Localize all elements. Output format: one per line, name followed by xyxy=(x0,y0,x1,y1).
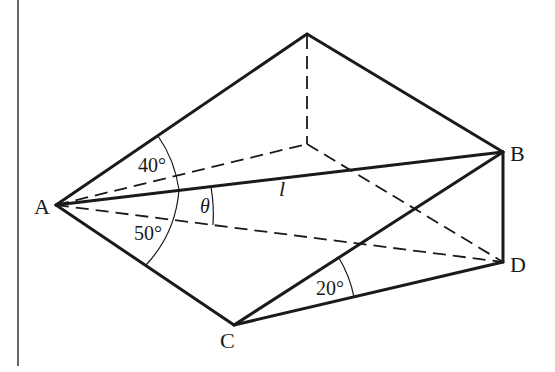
point-label-b: B xyxy=(510,141,525,166)
angle-label-theta: θ xyxy=(200,195,210,217)
geometry-figure: 40° 50° θ 20° l A B C D xyxy=(0,0,555,372)
angle-label-20: 20° xyxy=(316,277,344,299)
edge-top-b xyxy=(307,34,503,152)
angle-label-40: 40° xyxy=(138,154,166,176)
line-label-l: l xyxy=(279,176,285,201)
point-label-c: C xyxy=(220,328,235,353)
edge-cd xyxy=(234,262,503,325)
hidden-edge-a-back xyxy=(56,144,307,205)
diagram-canvas: 40° 50° θ 20° l A B C D xyxy=(0,0,555,372)
point-label-d: D xyxy=(510,252,526,277)
point-label-a: A xyxy=(34,194,50,219)
angle-label-50: 50° xyxy=(134,222,162,244)
angle-arc-theta xyxy=(211,187,213,225)
hidden-edge-back-d xyxy=(307,144,503,262)
hidden-edge-ad xyxy=(56,205,503,262)
